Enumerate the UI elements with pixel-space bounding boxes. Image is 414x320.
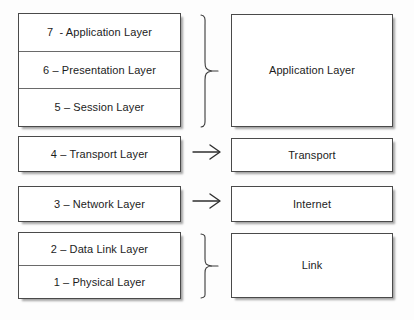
osi-layer-4-label: 4 – Transport Layer bbox=[51, 149, 148, 160]
osi-layer-1-label: 1 – Physical Layer bbox=[54, 277, 146, 288]
osi-layer-5-label: 5 – Session Layer bbox=[55, 102, 145, 113]
tcpip-internet-label: Internet bbox=[293, 199, 331, 210]
tcpip-application-cell: Application Layer bbox=[232, 15, 392, 126]
osi-tcpip-mapping-diagram: 7 - Application Layer 6 – Presentation L… bbox=[0, 0, 414, 320]
osi-layer-5: 5 – Session Layer bbox=[19, 89, 180, 126]
osi-lower-layers-group: 2 – Data Link Layer 1 – Physical Layer bbox=[18, 232, 181, 299]
osi-layer-4: 4 – Transport Layer bbox=[18, 136, 181, 172]
osi-layer-2: 2 – Data Link Layer bbox=[19, 233, 180, 266]
tcpip-transport-label: Transport bbox=[288, 150, 336, 161]
tcpip-transport-layer: Transport bbox=[231, 138, 393, 172]
tcpip-link-cell: Link bbox=[232, 234, 392, 297]
tcpip-link-label: Link bbox=[302, 260, 323, 271]
osi-upper-layers-group: 7 - Application Layer 6 – Presentation L… bbox=[18, 13, 181, 127]
osi-layer-6-label: 6 – Presentation Layer bbox=[43, 65, 156, 76]
osi-layer-7-label: 7 - Application Layer bbox=[47, 27, 152, 38]
arrow-right-icon bbox=[190, 190, 226, 212]
osi-layer-4-cell: 4 – Transport Layer bbox=[19, 137, 180, 171]
osi-layer-7: 7 - Application Layer bbox=[19, 14, 180, 52]
tcpip-application-label: Application Layer bbox=[269, 65, 355, 76]
osi-layer-6: 6 – Presentation Layer bbox=[19, 52, 180, 90]
tcpip-internet-layer: Internet bbox=[231, 186, 393, 222]
tcpip-link-layer: Link bbox=[231, 233, 393, 298]
arrow-right-icon bbox=[190, 141, 226, 163]
osi-layer-3: 3 – Network Layer bbox=[18, 186, 181, 222]
curly-brace-right-icon bbox=[192, 12, 220, 130]
osi-layer-2-label: 2 – Data Link Layer bbox=[51, 244, 148, 255]
osi-layer-3-label: 3 – Network Layer bbox=[54, 199, 145, 210]
tcpip-application-layer: Application Layer bbox=[231, 14, 393, 127]
tcpip-internet-cell: Internet bbox=[232, 187, 392, 221]
osi-layer-1: 1 – Physical Layer bbox=[19, 266, 180, 298]
curly-brace-right-icon bbox=[192, 231, 220, 301]
tcpip-transport-cell: Transport bbox=[232, 139, 392, 171]
osi-layer-3-cell: 3 – Network Layer bbox=[19, 187, 180, 221]
